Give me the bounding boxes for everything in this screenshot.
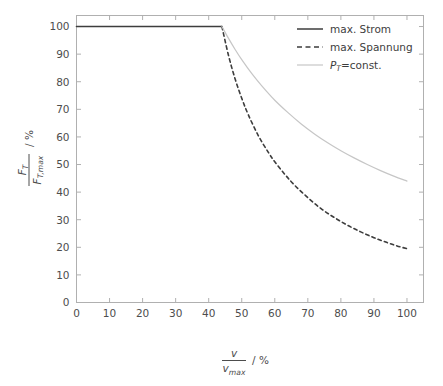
y-tick-label: 40 <box>56 186 69 198</box>
x-tick-label: 10 <box>103 307 116 319</box>
y-tick-label: 10 <box>56 269 69 281</box>
y-tick-label: 60 <box>56 131 69 143</box>
legend-label-max-spannung: max. Spannung <box>330 41 413 53</box>
x-tick-label: 60 <box>268 307 281 319</box>
x-tick-label: 100 <box>397 307 417 319</box>
legend-label-max-strom: max. Strom <box>330 23 391 35</box>
x-tick-label: 80 <box>334 307 347 319</box>
y-tick-label: 20 <box>56 241 69 253</box>
x-axis-numerator: v <box>231 347 238 359</box>
y-tick-label: 100 <box>49 20 69 32</box>
y-axis-unit: / % <box>23 130 35 147</box>
x-tick-label: 90 <box>367 307 380 319</box>
y-tick-label: 30 <box>56 214 69 226</box>
y-tick-label: 0 <box>63 296 70 308</box>
chart-figure: 0102030405060708090100 01020304050607080… <box>0 0 443 386</box>
x-tick-label: 50 <box>235 307 248 319</box>
legend-pt-rest: =const. <box>341 59 382 71</box>
y-axis-denominator-sub: T,max <box>36 155 45 178</box>
x-axis-unit: / % <box>252 354 269 366</box>
x-tick-label: 0 <box>73 307 80 319</box>
x-tick-label: 20 <box>136 307 149 319</box>
y-tick-label: 90 <box>56 48 69 60</box>
x-tick-label: 70 <box>301 307 314 319</box>
x-tick-label: 30 <box>169 307 182 319</box>
y-tick-label: 50 <box>56 158 69 170</box>
y-tick-label: 80 <box>56 76 69 88</box>
y-tick-label: 70 <box>56 103 69 115</box>
x-axis-denominator-sub: max <box>229 368 246 377</box>
x-tick-label: 40 <box>202 307 215 319</box>
chart-canvas: 0102030405060708090100 01020304050607080… <box>0 0 443 386</box>
